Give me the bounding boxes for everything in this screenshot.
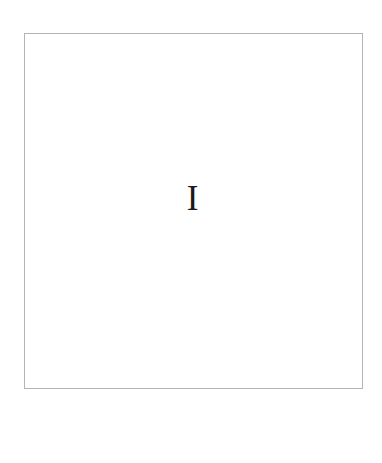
frame-body: I (25, 34, 362, 388)
blank-margin-top (0, 0, 382, 33)
page-canvas: I (0, 0, 382, 463)
blank-margin-left (0, 33, 24, 389)
blank-margin-bottom (0, 390, 382, 463)
content-frame: I (24, 33, 363, 389)
blank-margin-right (364, 33, 382, 389)
capital-letter-i-glyph: I (187, 181, 199, 216)
